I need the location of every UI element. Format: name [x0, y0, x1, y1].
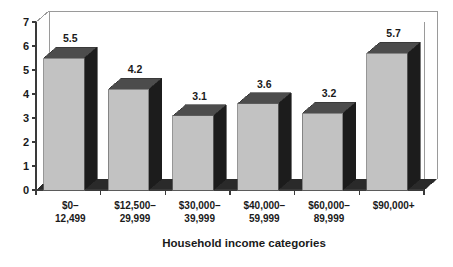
y-tick-label: 0	[23, 184, 29, 196]
x-category-label: 89,999	[314, 213, 345, 224]
bar-value-label: 5.5	[63, 32, 78, 44]
y-tick-label: 4	[23, 88, 30, 100]
bar-value-label: 3.6	[257, 78, 272, 90]
bar-value-label: 3.1	[192, 90, 207, 102]
y-tick-label: 1	[23, 160, 29, 172]
bar-column	[302, 102, 355, 190]
bar-column	[238, 93, 291, 190]
x-category-label: 29,999	[120, 213, 151, 224]
x-category-label: 59,999	[249, 213, 280, 224]
bar-column	[108, 78, 161, 190]
y-tick-label: 6	[23, 40, 29, 52]
y-tick-label: 5	[23, 64, 29, 76]
bar-column	[44, 47, 97, 190]
x-category-label: 12,499	[55, 213, 86, 224]
x-category-label: $0–	[62, 200, 79, 211]
bar-column	[173, 105, 226, 190]
x-category-label: $40,000–	[243, 200, 285, 211]
x-category-label: $60,000–	[308, 200, 350, 211]
x-category-label: $90,000+	[373, 200, 415, 211]
y-tick-label: 7	[23, 16, 29, 28]
x-category-label: $12,500–	[114, 200, 156, 211]
x-category-label: $30,000–	[179, 200, 221, 211]
bar-chart-figure: 01234567 5.54.23.13.63.25.7 $0–12,499$12…	[0, 0, 453, 267]
bar-value-label: 4.2	[128, 63, 143, 75]
chart-canvas: 01234567 5.54.23.13.63.25.7 $0–12,499$12…	[0, 0, 453, 267]
x-category-label: 39,999	[184, 213, 215, 224]
y-tick-label: 2	[23, 136, 29, 148]
x-axis-title: Household income categories	[162, 237, 326, 249]
bar-value-label: 3.2	[322, 87, 337, 99]
bar-column	[367, 42, 420, 190]
y-tick-label: 3	[23, 112, 29, 124]
bar-value-label: 5.7	[386, 27, 401, 39]
